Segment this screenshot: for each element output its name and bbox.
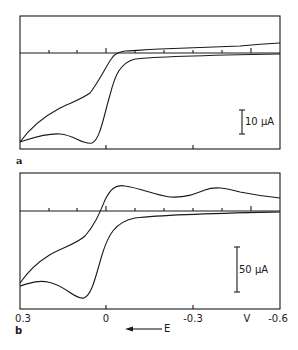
panel-a-baseline-ticks — [49, 48, 251, 53]
cyclic-voltammogram-figure — [0, 0, 298, 350]
panel-b-frame — [20, 173, 280, 309]
panel-b-voltammogram-curve — [20, 186, 280, 299]
panel-a-voltammogram-curve — [20, 43, 280, 143]
panel-a-bottom-ticks — [106, 145, 193, 149]
x-axis-label-e: E — [164, 324, 170, 334]
panel-a-label: a — [16, 155, 22, 166]
tick-label-minus-0.3: -0.3 — [183, 313, 203, 324]
panel-b-label: b — [15, 325, 22, 336]
panel-b-baseline-ticks — [49, 206, 251, 211]
tick-label-0: 0 — [103, 313, 109, 324]
tick-label-0.3: 0.3 — [15, 313, 31, 324]
panel-a-scale-label: 10 µA — [245, 117, 274, 127]
x-unit-label: V — [244, 313, 251, 324]
panel-b-scale-label: 50 µA — [239, 265, 268, 275]
arrow-head-icon — [125, 327, 133, 332]
tick-label-minus-0.6: -0.6 — [268, 313, 288, 324]
panel-a-frame — [20, 16, 280, 149]
panel-b-bottom-ticks — [106, 305, 193, 309]
